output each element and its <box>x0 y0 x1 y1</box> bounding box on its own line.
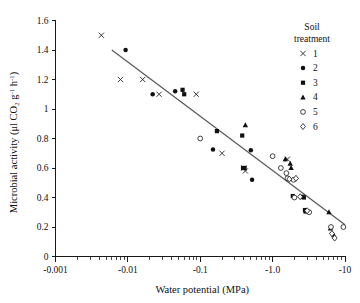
legend-marker-1 <box>300 51 305 56</box>
datapoint-s3-3 <box>240 133 244 137</box>
datapoint-s5-2 <box>278 166 283 171</box>
y-tick-label-0: 0 <box>44 252 49 262</box>
series-group-5 <box>198 136 346 229</box>
datapoint-s3-1 <box>182 92 186 96</box>
datapoint-s3-5 <box>243 166 247 170</box>
series-group-6 <box>287 175 337 241</box>
legend-marker-5 <box>301 110 306 115</box>
legend-marker-4 <box>300 94 305 99</box>
datapoint-s5-1 <box>270 154 275 159</box>
legend-marker-2 <box>301 66 306 71</box>
datapoint-s5-6 <box>292 195 297 200</box>
series-group-3 <box>180 88 307 214</box>
datapoint-s5-8 <box>329 225 334 230</box>
datapoint-s2-0 <box>123 48 128 53</box>
y-tick-label-3: 0.6 <box>37 163 49 173</box>
y-tick-label-2: 0.4 <box>37 193 49 203</box>
legend-entry-1[interactable]: 1 <box>300 49 318 59</box>
legend-label-2: 2 <box>313 63 318 73</box>
x-tick-label-3: -1.0 <box>265 265 280 275</box>
legend-title-line2: treatment <box>294 34 330 44</box>
datapoint-s1-2 <box>140 77 145 82</box>
datapoint-s2-3 <box>211 147 216 152</box>
legend-label-6: 6 <box>313 122 318 132</box>
datapoint-s5-3 <box>284 171 289 176</box>
datapoint-s5-0 <box>198 136 203 141</box>
x-tick-label-2: -0.1 <box>193 265 208 275</box>
regression-trendline <box>112 50 345 225</box>
y-axis-title: Microbial activity (μl CO2 g-1 h-1) <box>8 71 21 213</box>
datapoint-s5-9 <box>341 225 346 230</box>
x-tick-label-1: -0.01 <box>118 265 138 275</box>
datapoint-s3-0 <box>180 88 184 92</box>
legend-title-line1: Soil <box>304 22 320 32</box>
x-tick-label-4: -10 <box>339 265 352 275</box>
y-tick-label-5: 1 <box>44 104 49 114</box>
legend-entry-4[interactable]: 4 <box>300 92 318 102</box>
series-group-2 <box>123 48 254 182</box>
datapoint-s2-5 <box>250 178 255 183</box>
datapoint-s4-0 <box>243 122 248 127</box>
legend-label-5: 5 <box>313 107 318 117</box>
legend-entry-6[interactable]: 6 <box>301 122 318 132</box>
legend-label-1: 1 <box>313 49 318 59</box>
legend-marker-3 <box>301 81 305 85</box>
datapoint-s2-2 <box>173 89 178 94</box>
datapoint-s4-3 <box>288 165 293 170</box>
datapoint-s2-4 <box>249 148 254 153</box>
datapoint-s2-1 <box>150 92 155 97</box>
legend-entry-5[interactable]: 5 <box>301 107 318 117</box>
datapoint-s4-2 <box>288 161 293 166</box>
y-tick-label-7: 1.4 <box>37 45 49 55</box>
y-tick-label-6: 1.2 <box>37 75 49 85</box>
y-tick-label-4: 0.8 <box>37 134 49 144</box>
datapoint-s1-1 <box>118 77 123 82</box>
plot-canvas: 00.20.40.60.811.21.41.6-0.001-0.01-0.1-1… <box>0 0 360 303</box>
x-axis-title: Water potential (MPa) <box>155 284 249 296</box>
datapoint-s1-0 <box>99 33 104 38</box>
datapoint-s3-2 <box>215 129 219 133</box>
y-tick-label-8: 1.6 <box>37 16 49 26</box>
legend-marker-6 <box>301 124 306 130</box>
series-group-1 <box>99 33 290 174</box>
scatter-chart-figure: 00.20.40.60.811.21.41.6-0.001-0.01-0.1-1… <box>0 0 360 303</box>
datapoint-s1-5 <box>219 151 224 156</box>
x-tick-label-0: -0.001 <box>43 265 68 275</box>
legend-entry-2[interactable]: 2 <box>301 63 318 73</box>
datapoint-s1-3 <box>156 92 161 97</box>
legend-entry-3[interactable]: 3 <box>301 78 318 88</box>
legend-label-4: 4 <box>313 92 318 102</box>
y-tick-label-1: 0.2 <box>37 222 49 232</box>
datapoint-s1-4 <box>194 92 199 97</box>
legend-label-3: 3 <box>313 78 318 88</box>
